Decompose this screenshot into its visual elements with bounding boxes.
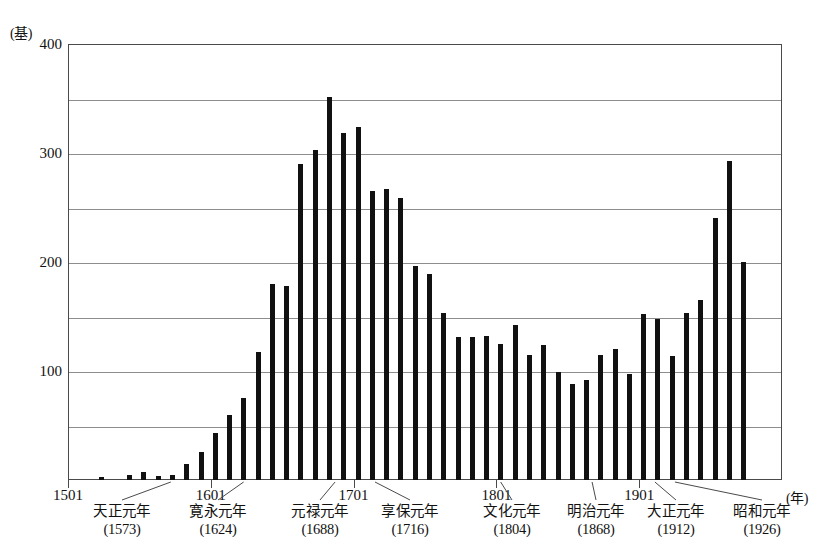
leader-line-kanei (218, 482, 244, 500)
leader-line-genroku (320, 482, 335, 500)
leader-line-kyoho (375, 482, 410, 500)
leader-line-tensho (122, 482, 171, 500)
leader-line-meiji (592, 482, 596, 500)
leader-line-bunka (501, 482, 512, 500)
chart-root: (基) 100200300400 (年) 1501160117011801190… (0, 0, 826, 554)
leader-line-taisho (655, 482, 676, 500)
leader-line-showa (675, 482, 762, 500)
annotation-leader-lines (0, 0, 826, 554)
